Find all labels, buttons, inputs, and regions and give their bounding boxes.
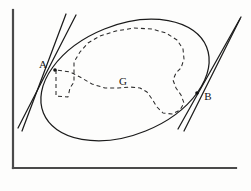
- geometry-figure: A B G: [0, 0, 251, 191]
- figure-canvas: A B G: [0, 0, 251, 191]
- label-region-g: G: [119, 75, 127, 87]
- label-point-b: B: [204, 90, 211, 102]
- inner-dashed-region: [56, 28, 184, 114]
- tangent-line-b: [178, 17, 241, 129]
- label-point-a: A: [39, 58, 47, 70]
- tangent-line-b-secondary: [184, 19, 240, 131]
- tangency-point-b-dot: [195, 91, 199, 95]
